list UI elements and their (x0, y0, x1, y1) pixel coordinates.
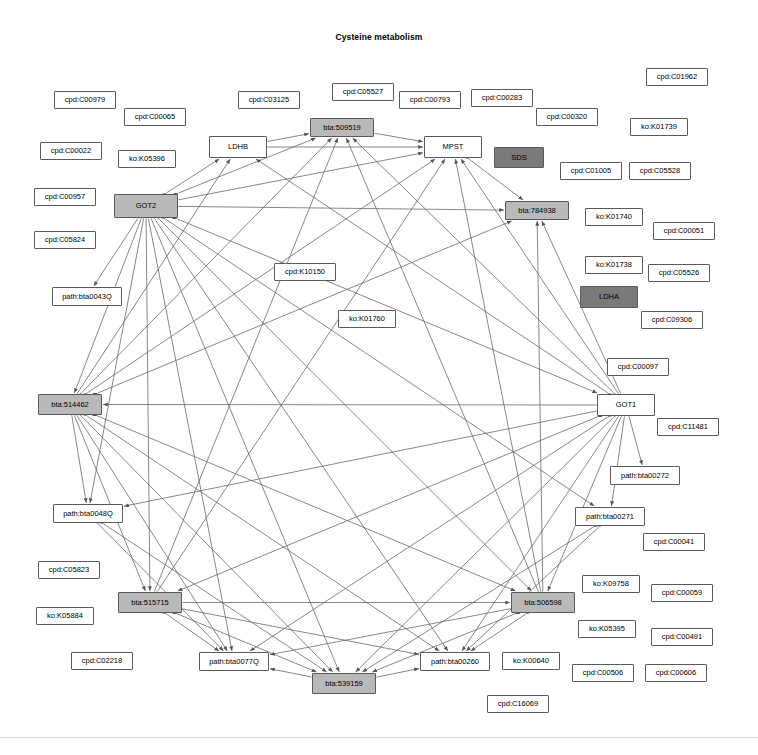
graph-node[interactable]: cpd:C00506 (572, 664, 634, 682)
graph-node[interactable]: cpd:K10150 (274, 263, 336, 281)
graph-node[interactable]: ko:K01738 (585, 256, 643, 274)
graph-node[interactable]: cpd:C03125 (238, 91, 300, 109)
graph-node-label: ko:K01739 (641, 123, 677, 131)
graph-node[interactable]: cpd:C00065 (124, 108, 186, 126)
graph-edge (94, 219, 138, 286)
graph-node[interactable]: bta:515715 (118, 592, 182, 613)
graph-node-label: cpd:C02218 (82, 657, 122, 665)
graph-node-label: ko:K01760 (349, 315, 385, 323)
graph-node-label: cpd:K10150 (285, 268, 325, 276)
graph-node[interactable]: cpd:C00491 (651, 628, 713, 646)
graph-node-label: cpd:C00065 (135, 113, 175, 121)
graph-node-label: cpd:C00051 (664, 227, 704, 235)
graph-edge (165, 219, 594, 506)
graph-node[interactable]: cpd:C00051 (653, 222, 715, 240)
graph-node[interactable]: cpd:C05823 (38, 561, 100, 579)
graph-edge (270, 669, 311, 677)
graph-node[interactable]: cpd:C00979 (54, 91, 116, 109)
graph-node[interactable]: cpd:C05528 (629, 162, 691, 180)
graph-node[interactable]: cpd:C16069 (487, 695, 549, 713)
graph-node-label: SDS (511, 154, 526, 162)
graph-node-label: cpd:C05823 (49, 566, 89, 574)
graph-edge (537, 221, 543, 591)
graph-node[interactable]: bta:514462 (38, 394, 102, 415)
graph-node[interactable]: bta:506598 (511, 592, 575, 613)
graph-node[interactable]: GOT1 (597, 394, 655, 416)
graph-node-label: GOT2 (136, 202, 156, 210)
graph-node-label: ko:K09758 (593, 580, 629, 588)
graph-edge (548, 417, 621, 591)
graph-node-label: cpd:C05526 (659, 269, 699, 277)
graph-node-label: bta:509519 (323, 124, 361, 132)
graph-node[interactable]: bta:539159 (312, 673, 376, 694)
graph-node-label: cpd:C00506 (583, 669, 623, 677)
graph-node[interactable]: cpd:C00957 (34, 188, 96, 206)
graph-node-label: cpd:C00097 (618, 363, 658, 371)
graph-node-label: cpd:C00491 (662, 633, 702, 641)
graph-edge (461, 159, 618, 393)
graph-node[interactable]: cpd:C00041 (643, 533, 705, 551)
graph-node[interactable]: path:bta0077Q (199, 652, 269, 671)
graph-node[interactable]: cpd:C09306 (641, 311, 703, 329)
graph-edge (612, 417, 625, 506)
graph-node[interactable]: cpd:C02218 (71, 652, 133, 670)
graph-node[interactable]: ko:K01740 (585, 208, 643, 226)
graph-node-label: LDHB (228, 143, 248, 151)
graph-node-label: cpd:C03125 (249, 96, 289, 104)
graph-node[interactable]: ko:K00640 (502, 652, 560, 670)
graph-edge (179, 206, 504, 210)
graph-node-label: cpd:C01005 (571, 167, 611, 175)
graph-node[interactable]: ko:K09758 (582, 575, 640, 593)
graph-node-label: cpd:C00059 (662, 589, 702, 597)
graph-edge (462, 417, 618, 651)
graph-node-label: cpd:C00320 (547, 113, 587, 121)
graph-node[interactable]: MPST (424, 136, 482, 158)
graph-edge (159, 219, 532, 591)
graph-node[interactable]: ko:K01739 (630, 118, 688, 136)
graph-node[interactable]: cpd:C01005 (560, 162, 622, 180)
graph-node[interactable]: cpd:C00320 (536, 108, 598, 126)
graph-node-label: cpd:C00022 (51, 147, 91, 155)
graph-node-label: cpd:C00041 (654, 538, 694, 546)
graph-node[interactable]: cpd:C00059 (651, 584, 713, 602)
graph-node[interactable]: cpd:C05527 (332, 83, 394, 101)
graph-node[interactable]: bta:784938 (505, 201, 569, 220)
graph-node[interactable]: path:bta0048Q (53, 504, 123, 523)
graph-node-label: path:bta0043Q (62, 293, 112, 301)
graph-node[interactable]: cpd:C05526 (648, 264, 710, 282)
graph-node[interactable]: cpd:C00606 (645, 664, 707, 682)
graph-edge (178, 417, 597, 591)
graph-node[interactable]: LDHB (209, 136, 267, 158)
graph-node[interactable]: LDHA (580, 286, 638, 308)
graph-node-label: cpd:C05527 (343, 88, 383, 96)
graph-edge (98, 416, 516, 591)
graph-node[interactable]: cpd:C11481 (657, 418, 719, 436)
graph-node-label: path:bta0048Q (63, 510, 113, 518)
graph-node[interactable]: cpd:C01962 (646, 68, 708, 86)
graph-node[interactable]: cpd:C00793 (399, 91, 461, 109)
graph-node[interactable]: path:bta00260 (420, 652, 490, 671)
graph-node-label: ko:K01740 (596, 213, 632, 221)
graph-node-label: LDHA (599, 293, 619, 301)
graph-node[interactable]: GOT2 (114, 194, 178, 218)
graph-edge (155, 138, 338, 591)
graph-node[interactable]: ko:K01760 (338, 310, 396, 328)
graph-node[interactable]: path:bta00271 (575, 507, 645, 526)
graph-node[interactable]: path:bta00272 (610, 466, 680, 485)
graph-node[interactable]: SDS (494, 147, 544, 168)
graph-node-label: cpd:C00957 (45, 193, 85, 201)
graph-node[interactable]: cpd:C00022 (40, 142, 102, 160)
graph-node[interactable]: bta:509519 (310, 118, 374, 137)
graph-node[interactable]: cpd:C05824 (34, 231, 96, 249)
graph-node[interactable]: ko:K05884 (36, 607, 94, 625)
graph-node[interactable]: ko:K05395 (578, 620, 636, 638)
graph-node[interactable]: cpd:C00097 (607, 358, 669, 376)
graph-edge (270, 609, 510, 655)
graph-node[interactable]: cpd:C00283 (471, 89, 533, 107)
graph-edge (455, 159, 540, 591)
graph-node[interactable]: path:bta0043Q (52, 287, 122, 306)
graph-node[interactable]: ko:K05396 (118, 150, 176, 168)
graph-node-label: cpd:C00979 (65, 96, 105, 104)
graph-edge (158, 159, 445, 591)
graph-node-label: cpd:C00793 (410, 96, 450, 104)
